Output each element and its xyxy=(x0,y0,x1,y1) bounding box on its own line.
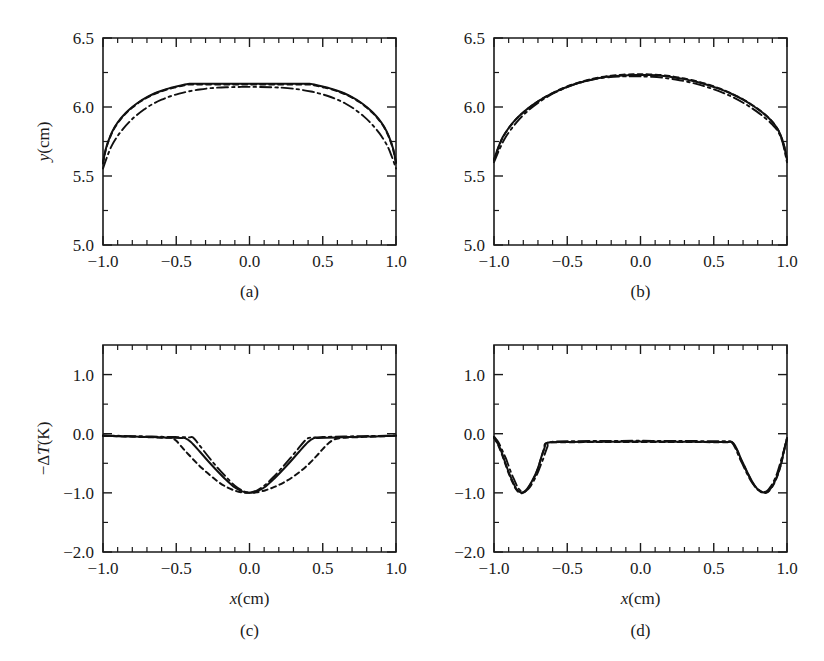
ytick-label-a-2: 6.0 xyxy=(73,98,94,117)
xtick-label-c-4: 1.0 xyxy=(385,559,406,578)
xtick-label-d-2: 0.0 xyxy=(630,559,651,578)
xtick-label-c-1: −0.5 xyxy=(161,559,192,578)
panel-b: −1.0−0.50.00.51.05.05.56.06.5(b) xyxy=(464,29,798,301)
curve-b-dotted xyxy=(494,74,787,160)
xtick-label-a-3: 0.5 xyxy=(312,252,333,271)
figure-canvas: −1.0−0.50.00.51.05.05.56.06.5y(cm)(a)−1.… xyxy=(0,0,824,661)
xtick-label-d-1: −0.5 xyxy=(552,559,583,578)
xtick-label-b-1: −0.5 xyxy=(552,252,583,271)
ytick-label-a-3: 6.5 xyxy=(73,29,94,48)
curve-c-dotted xyxy=(103,436,396,493)
curves-c xyxy=(103,435,396,492)
curve-a-solid xyxy=(103,84,396,162)
xtick-label-a-2: 0.0 xyxy=(239,252,260,271)
xtick-label-d-3: 0.5 xyxy=(703,559,724,578)
curve-c-dash-dot xyxy=(103,435,396,492)
ytick-label-b-0: 5.0 xyxy=(464,236,485,255)
ytick-label-a-1: 5.5 xyxy=(73,167,94,186)
ytick-label-d-1: −1.0 xyxy=(454,484,485,503)
panel-caption-b: (b) xyxy=(631,282,651,301)
plot-frame-a xyxy=(103,38,396,245)
plot-frame-b xyxy=(494,38,787,245)
ytick-label-b-1: 5.5 xyxy=(464,167,485,186)
curve-b-dash-dot xyxy=(494,76,787,162)
xtick-label-b-4: 1.0 xyxy=(776,252,797,271)
ytick-label-a-0: 5.0 xyxy=(73,236,94,255)
plot-frame-d xyxy=(494,345,787,552)
ytick-label-b-2: 6.0 xyxy=(464,98,485,117)
x-axis-title-d: x(cm) xyxy=(620,589,661,608)
ytick-label-d-2: 0.0 xyxy=(464,425,485,444)
curves-a xyxy=(103,84,396,169)
xtick-label-b-3: 0.5 xyxy=(703,252,724,271)
panel-caption-d: (d) xyxy=(631,621,651,640)
curve-a-dash-dot xyxy=(103,87,396,169)
xtick-label-d-4: 1.0 xyxy=(776,559,797,578)
curves-b xyxy=(494,74,787,162)
ytick-label-c-1: −1.0 xyxy=(63,484,94,503)
panel-caption-c: (c) xyxy=(240,621,259,640)
panel-a: −1.0−0.50.00.51.05.05.56.06.5y(cm)(a) xyxy=(34,29,407,301)
y-axis-title-c: −ΔT(K) xyxy=(34,422,53,476)
y-axis-title-a: y(cm) xyxy=(34,122,53,164)
ytick-label-c-2: 0.0 xyxy=(73,425,94,444)
panel-caption-a: (a) xyxy=(240,282,259,301)
curves-d xyxy=(494,437,787,494)
ytick-label-d-0: −2.0 xyxy=(454,543,485,562)
plot-frame-c xyxy=(103,345,396,552)
ytick-label-d-3: 1.0 xyxy=(464,366,485,385)
curve-b-solid xyxy=(494,75,787,159)
xtick-label-c-2: 0.0 xyxy=(239,559,260,578)
ytick-label-b-3: 6.5 xyxy=(464,29,485,48)
curve-d-dash-dot xyxy=(494,437,787,492)
ytick-label-c-0: −2.0 xyxy=(63,543,94,562)
x-axis-title-c: x(cm) xyxy=(229,589,270,608)
panel-c: −1.0−0.50.00.51.0−2.0−1.00.01.0−ΔT(K)x(c… xyxy=(34,345,407,640)
xtick-label-a-1: −0.5 xyxy=(161,252,192,271)
xtick-label-a-4: 1.0 xyxy=(385,252,406,271)
panel-d: −1.0−0.50.00.51.0−2.0−1.00.01.0x(cm)(d) xyxy=(454,345,797,640)
curve-c-solid xyxy=(103,436,396,493)
ytick-label-c-3: 1.0 xyxy=(73,366,94,385)
xtick-label-c-3: 0.5 xyxy=(312,559,333,578)
xtick-label-b-2: 0.0 xyxy=(630,252,651,271)
